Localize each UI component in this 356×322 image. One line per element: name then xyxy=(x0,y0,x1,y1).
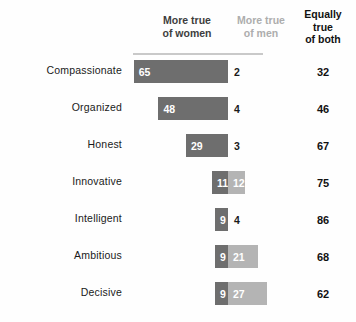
bar-value-men: 27 xyxy=(233,288,245,300)
bar-segment-men: 27 xyxy=(228,282,267,305)
bar-value-women: 9 xyxy=(220,251,226,263)
bar-group: 92168 xyxy=(0,245,356,269)
header-divider xyxy=(133,53,263,55)
trait-comparison-chart: More true of women More true of men Equa… xyxy=(0,0,356,322)
header-women-line2: of women xyxy=(163,27,212,39)
equally-true-value: 67 xyxy=(294,134,352,157)
bar-segment-women: 9 xyxy=(215,208,228,231)
bar-value-men: 4 xyxy=(234,97,240,120)
chart-row: Compassionate65232 xyxy=(0,58,356,95)
bar-value-women: 9 xyxy=(220,288,226,300)
column-headers: More true of women More true of men Equa… xyxy=(0,8,356,52)
bar-value-men: 2 xyxy=(234,60,240,83)
bar-segment-women: 9 xyxy=(215,282,228,305)
bar-segment-men: 21 xyxy=(228,245,258,268)
bar-segment-women: 48 xyxy=(158,97,228,120)
equally-true-value: 75 xyxy=(294,171,352,194)
bar-group: 9486 xyxy=(0,208,356,232)
bar-group: 48446 xyxy=(0,97,356,121)
bar-value-women: 48 xyxy=(163,103,175,115)
bar-segment-men: 12 xyxy=(228,171,245,194)
header-men-line1: More true xyxy=(237,14,285,26)
bar-value-men: 3 xyxy=(234,134,240,157)
header-both-line2: true xyxy=(313,21,333,33)
chart-row: Ambitious92168 xyxy=(0,243,356,280)
bar-group: 92762 xyxy=(0,282,356,306)
header-both-line3: of both xyxy=(305,33,341,45)
bar-value-women: 11 xyxy=(217,177,228,189)
chart-row: Honest29367 xyxy=(0,132,356,169)
column-header-equally-true-of-both: Equally true of both xyxy=(294,8,352,46)
bar-value-men: 4 xyxy=(234,208,240,231)
header-women-line1: More true xyxy=(163,14,211,26)
equally-true-value: 62 xyxy=(294,282,352,305)
column-header-more-true-of-men: More true of men xyxy=(228,14,294,39)
bar-value-men: 21 xyxy=(233,251,245,263)
column-header-more-true-of-women: More true of women xyxy=(148,14,226,39)
bar-value-women: 29 xyxy=(191,140,203,152)
chart-row: Decisive92762 xyxy=(0,280,356,317)
bar-value-women: 9 xyxy=(220,214,226,226)
bar-value-men: 12 xyxy=(233,177,245,189)
bar-group: 29367 xyxy=(0,134,356,158)
equally-true-value: 86 xyxy=(294,208,352,231)
chart-row: Innovative111275 xyxy=(0,169,356,206)
bar-segment-women: 65 xyxy=(134,60,228,83)
chart-row: Organized48446 xyxy=(0,95,356,132)
bar-segment-women: 11 xyxy=(212,171,228,194)
bar-segment-women: 9 xyxy=(215,245,228,268)
bar-group: 111275 xyxy=(0,171,356,195)
bar-value-women: 65 xyxy=(139,66,151,78)
equally-true-value: 46 xyxy=(294,97,352,120)
header-men-line2: of men xyxy=(244,27,278,39)
bar-segment-women: 29 xyxy=(186,134,228,157)
equally-true-value: 32 xyxy=(294,60,352,83)
equally-true-value: 68 xyxy=(294,245,352,268)
header-both-line1: Equally xyxy=(304,8,341,20)
chart-rows: Compassionate65232Organized48446Honest29… xyxy=(0,58,356,317)
bar-group: 65232 xyxy=(0,60,356,84)
chart-row: Intelligent9486 xyxy=(0,206,356,243)
